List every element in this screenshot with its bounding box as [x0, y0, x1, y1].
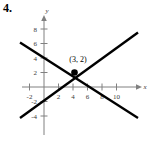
- y-tick-label--4: -4: [31, 113, 37, 121]
- x-tick-label-6: 6: [86, 93, 90, 101]
- x-tick-label-2: 2: [57, 93, 61, 101]
- y-axis-label: y: [44, 7, 49, 15]
- arrow-up-icon: [41, 15, 47, 21]
- y-tick-label-8: 8: [34, 26, 38, 34]
- ascending-line: [20, 33, 138, 119]
- x-axis-label: x: [142, 83, 147, 91]
- intersection-point-label: (3, 2): [69, 55, 87, 64]
- coordinate-plane-plot: -2 2 4 6 8 10 8 6 4 2 -2 -4 x y (3, 2): [0, 0, 152, 145]
- x-tick-label-10: 10: [113, 93, 121, 101]
- y-tick-label-4: 4: [34, 55, 38, 63]
- descending-line: [20, 43, 138, 119]
- axes-group: [22, 15, 142, 135]
- intersection-point-marker: [71, 69, 78, 76]
- graph-figure: 4.: [0, 0, 152, 145]
- x-tick-label-4: 4: [71, 93, 75, 101]
- y-tick-label-6: 6: [34, 40, 38, 48]
- data-lines-group: [20, 33, 138, 119]
- y-tick-label-2: 2: [34, 69, 38, 77]
- arrow-right-icon: [136, 84, 142, 90]
